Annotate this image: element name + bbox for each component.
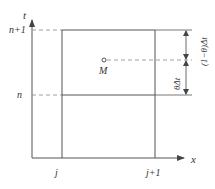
dim-upper-label: (1−θ)Δt (199, 37, 209, 66)
node-j-plus-1-label: j+1 (144, 167, 161, 178)
x-axis-label: x (190, 153, 196, 165)
t-axis-label: t (23, 9, 27, 21)
dim-lower-label: θΔt (172, 77, 182, 90)
node-j-label: j (53, 167, 58, 178)
finite-difference-grid-diagram: t x n+1 n j j+1 M (1−θ)Δt θΔt (0, 0, 215, 189)
level-n-plus-1-label: n+1 (9, 24, 26, 35)
point-m-label: M (98, 65, 108, 76)
level-n-label: n (17, 89, 22, 100)
point-m-marker (102, 58, 106, 62)
